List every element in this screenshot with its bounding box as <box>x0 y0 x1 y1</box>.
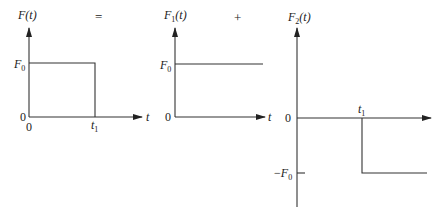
f1-y-tick-origin: 0 <box>165 110 171 124</box>
f2-title: F2(t) <box>287 10 311 26</box>
f1-title: F1(t) <box>163 8 187 24</box>
f-title: F(t) <box>17 8 37 22</box>
graph-f1: F1(t) F0 0 t <box>159 8 272 124</box>
f-x-tick-origin: 0 <box>26 120 32 134</box>
f-y-tick-f0: F0 <box>13 57 25 73</box>
f1-y-tick-f0: F0 <box>159 58 171 74</box>
f2-x-tick-t1: t1 <box>358 102 365 118</box>
f-pulse-line <box>29 63 95 117</box>
f1-x-label: t <box>268 110 272 124</box>
f-x-tick-t1: t1 <box>91 118 98 134</box>
graph-f2: F2(t) 0 t1 −F0 <box>274 10 431 207</box>
graph-f: F(t) F0 0 0 t1 t <box>13 8 150 134</box>
f2-negative-step-line <box>362 118 427 173</box>
plus-sign: + <box>234 10 241 25</box>
f-x-label: t <box>146 110 150 124</box>
f2-y-tick-origin: 0 <box>285 111 291 125</box>
pulse-decomposition-diagram: F(t) F0 0 0 t1 t = F1(t) F0 0 t + F2(t) … <box>0 0 442 217</box>
equals-sign: = <box>95 9 102 24</box>
f2-y-tick-neg-f0: −F0 <box>274 166 292 182</box>
